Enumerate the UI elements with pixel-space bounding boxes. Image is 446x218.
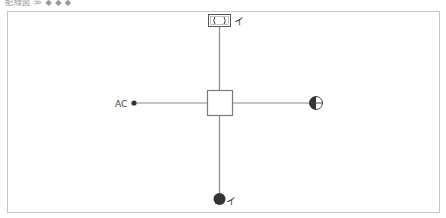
left-node-label: AC [115, 99, 127, 109]
terminal-dot-icon [131, 100, 136, 105]
bottom-node-label: イ [226, 196, 236, 207]
outlet-box-icon [209, 15, 231, 27]
filled-circle-icon [214, 193, 226, 205]
half-filled-circle-icon [310, 97, 323, 110]
junction-box [208, 91, 233, 116]
wiring-diagram: イ AC イ [0, 0, 446, 218]
top-node-label: イ [234, 16, 244, 27]
